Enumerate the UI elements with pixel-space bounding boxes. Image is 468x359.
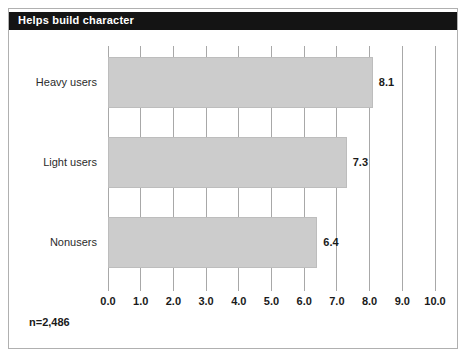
bar-value-heavy-users: 8.1: [379, 76, 394, 88]
bar-value-nonusers: 6.4: [323, 236, 338, 248]
x-tick-5.0: 5.0: [264, 295, 279, 307]
bar-heavy-users: [108, 57, 373, 108]
category-label-nonusers: Nonusers: [9, 236, 97, 248]
category-label-light-users: Light users: [9, 156, 97, 168]
sample-size-note: n=2,486: [29, 316, 70, 328]
x-tick-1.0: 1.0: [133, 295, 148, 307]
x-tick-10.0: 10.0: [424, 295, 445, 307]
plot-area: Heavy users8.1Light users7.3Nonusers6.4 …: [9, 33, 457, 349]
x-tick-7.0: 7.0: [329, 295, 344, 307]
chart-title-bar: Helps build character: [9, 12, 457, 30]
x-tick-4.0: 4.0: [231, 295, 246, 307]
bar-row: Heavy users8.1: [9, 57, 457, 108]
x-tick-9.0: 9.0: [395, 295, 410, 307]
bar-value-light-users: 7.3: [353, 156, 368, 168]
bar-row: Light users7.3: [9, 137, 457, 188]
x-tick-0.0: 0.0: [100, 295, 115, 307]
x-tick-2.0: 2.0: [166, 295, 181, 307]
bar-nonusers: [108, 217, 317, 268]
page-title: Helps build character: [18, 14, 134, 26]
bar-row: Nonusers6.4: [9, 217, 457, 268]
chart-figure: Helps build character Heavy users8.1Ligh…: [8, 8, 458, 349]
x-tick-8.0: 8.0: [362, 295, 377, 307]
x-tick-6.0: 6.0: [297, 295, 312, 307]
bar-light-users: [108, 137, 347, 188]
category-label-heavy-users: Heavy users: [9, 76, 97, 88]
x-tick-3.0: 3.0: [198, 295, 213, 307]
